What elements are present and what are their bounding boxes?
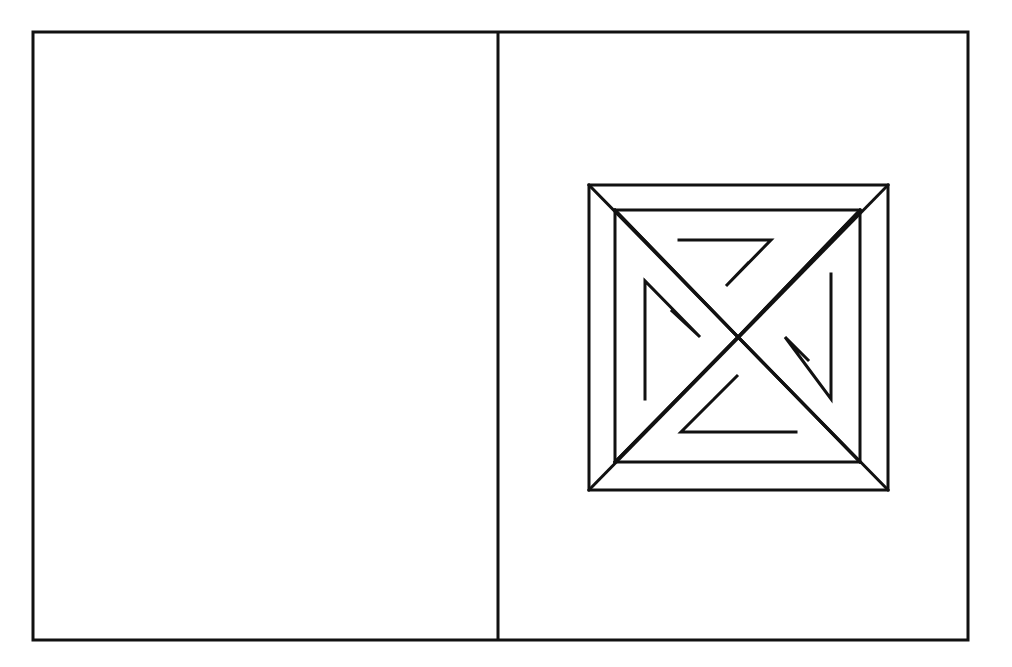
line-art-canvas — [0, 0, 1012, 667]
artboard: Geometric Pattern Line Art Two-panel bla… — [0, 0, 1012, 667]
